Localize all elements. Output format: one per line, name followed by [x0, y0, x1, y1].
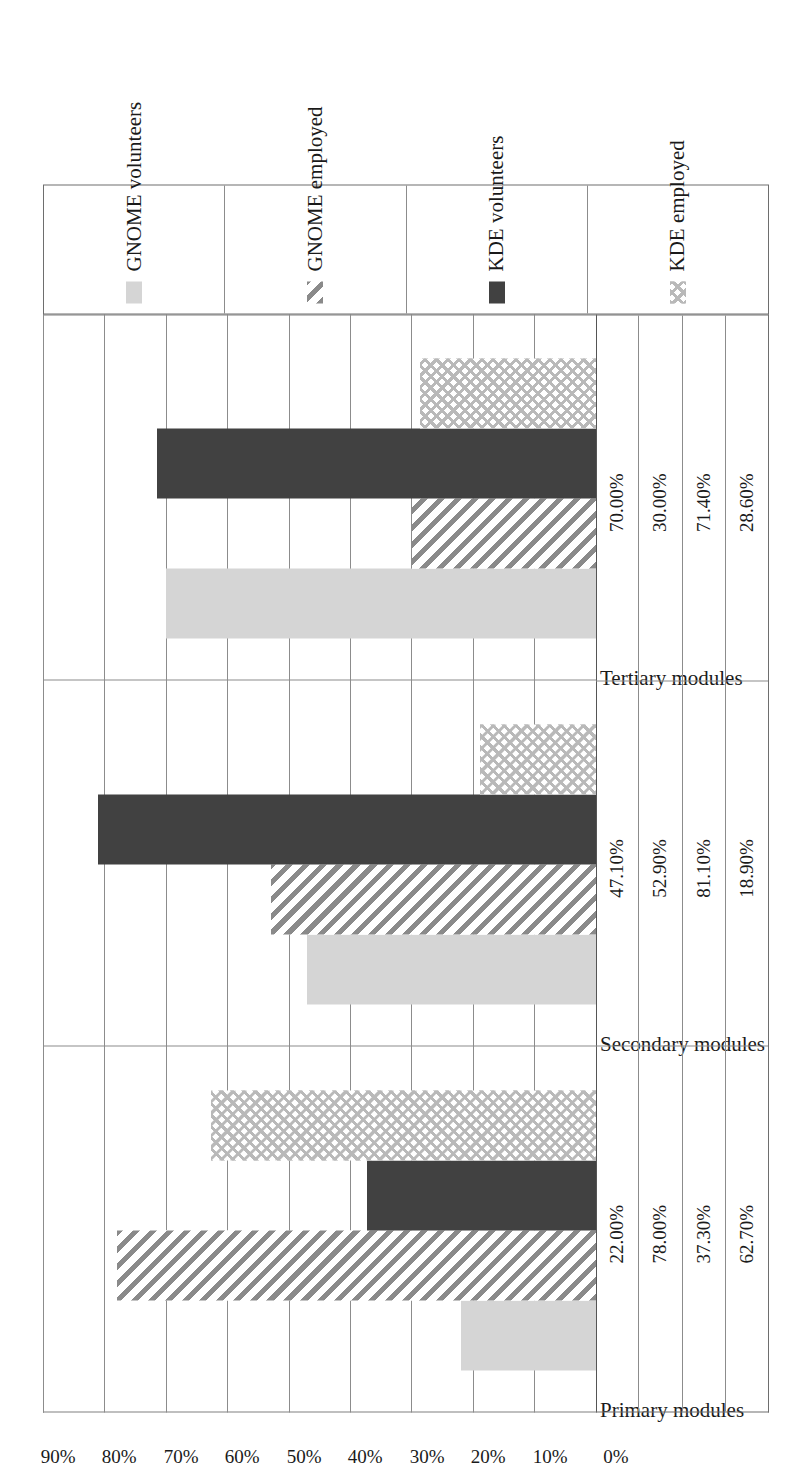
legend-label: KDE employed: [665, 140, 690, 271]
bar-tertiary-gnome-volunteers: [166, 568, 596, 638]
chart-legend: GNOME volunteers GNOME employed KDE volu…: [43, 184, 769, 314]
tick-label-80: 80%: [77, 1447, 137, 1466]
tick-label-40: 40%: [323, 1447, 383, 1466]
legend-swatch-light-gray-icon: [126, 281, 142, 303]
bar-secondary-gnome-volunteers: [307, 934, 596, 1004]
cell-kde-volunteers-primary: 37.30%: [683, 1045, 725, 1411]
legend-label: KDE volunteers: [484, 135, 509, 271]
bar-tertiary-kde-volunteers: [157, 428, 596, 498]
legend-swatch-diagonal-hatch-icon: [307, 281, 323, 303]
bar-primary-kde-volunteers: [367, 1160, 596, 1230]
tick-label-10: 10%: [508, 1447, 568, 1466]
bar-secondary-kde-volunteers: [98, 794, 596, 864]
cell-kde-employed-secondary: 18.90%: [726, 680, 768, 1046]
table-row: 22.00% 47.10% 70.00%: [596, 315, 639, 1411]
cell-kde-employed-tertiary: 28.60%: [726, 315, 768, 680]
legend-swatch-dark-gray-icon: [489, 281, 505, 303]
legend-item-gnome-volunteers[interactable]: GNOME volunteers: [44, 185, 225, 313]
gridline-90: [43, 314, 44, 1412]
bar-primary-gnome-employed: [117, 1230, 596, 1300]
cell-gnome-volunteers-secondary: 47.10%: [596, 680, 638, 1046]
table-row: 78.00% 52.90% 30.00%: [639, 315, 682, 1411]
tick-label-60: 60%: [200, 1447, 260, 1466]
legend-item-gnome-employed[interactable]: GNOME employed: [225, 185, 406, 313]
category-separator-1: [43, 1045, 596, 1046]
cell-gnome-employed-secondary: 52.90%: [639, 680, 681, 1046]
bar-secondary-gnome-employed: [271, 864, 596, 934]
legend-label: GNOME volunteers: [122, 101, 147, 271]
legend-swatch-cross-hatch-icon: [670, 281, 686, 303]
tick-label-30: 30%: [385, 1447, 445, 1466]
table-row: 62.70% 18.90% 28.60%: [726, 315, 768, 1411]
bar-secondary-kde-employed: [480, 724, 596, 794]
legend-label: GNOME employed: [303, 106, 328, 271]
legend-item-kde-employed[interactable]: KDE employed: [588, 185, 768, 313]
tick-label-0: 0%: [569, 1447, 629, 1466]
table-row: 37.30% 81.10% 71.40%: [683, 315, 726, 1411]
cell-gnome-volunteers-primary: 22.00%: [596, 1045, 638, 1411]
bar-tertiary-kde-employed: [420, 358, 596, 428]
bar-primary-gnome-volunteers: [461, 1300, 596, 1370]
tick-label-90: 90%: [16, 1447, 76, 1466]
tick-label-20: 20%: [446, 1447, 506, 1466]
tick-label-70: 70%: [139, 1447, 199, 1466]
cell-gnome-employed-primary: 78.00%: [639, 1045, 681, 1411]
bar-tertiary-gnome-employed: [412, 498, 596, 568]
cell-kde-employed-primary: 62.70%: [726, 1045, 768, 1411]
legend-item-kde-volunteers[interactable]: KDE volunteers: [407, 185, 588, 313]
cell-kde-volunteers-tertiary: 71.40%: [683, 315, 725, 680]
bar-primary-kde-employed: [211, 1090, 596, 1160]
tick-label-50: 50%: [262, 1447, 322, 1466]
category-separator-2: [43, 679, 596, 680]
cell-kde-volunteers-secondary: 81.10%: [683, 680, 725, 1046]
cell-gnome-volunteers-tertiary: 70.00%: [596, 315, 638, 680]
data-table: 22.00% 47.10% 70.00% 78.00% 52.90% 30.00…: [596, 314, 769, 1412]
cell-gnome-employed-tertiary: 30.00%: [639, 315, 681, 680]
plot-area: [43, 314, 596, 1412]
